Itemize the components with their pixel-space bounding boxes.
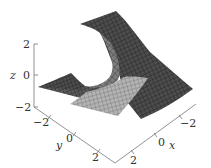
x-tick-label-0: 0	[158, 136, 165, 149]
y-axis-label: y	[55, 139, 63, 152]
z-tick-label-0: 0	[23, 69, 30, 82]
x-axis-line	[115, 104, 196, 163]
y-tick-label-0: 0	[66, 132, 73, 145]
surface	[38, 11, 193, 119]
z-tick-label-neg2: −2	[15, 101, 31, 114]
z-tick-label-2: 2	[23, 38, 30, 51]
y-tick-label-neg2: −2	[33, 116, 49, 129]
x-tick-label-neg2: −2	[180, 117, 196, 130]
x-tick-label-2: 2	[130, 154, 137, 167]
surface-plot: 2 0 −2 z −2 0 2 y 2 0 −2 x	[0, 0, 211, 168]
x-axis-label: x	[169, 139, 176, 152]
z-axis-label: z	[9, 69, 16, 82]
y-tick-label-2: 2	[92, 151, 99, 164]
